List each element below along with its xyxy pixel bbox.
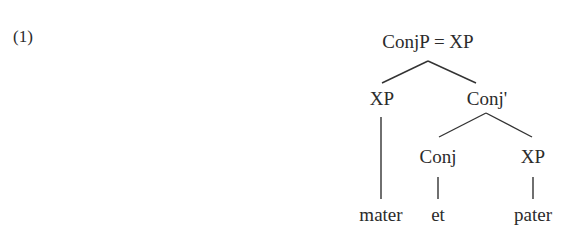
node-conj: Conj [420,147,457,167]
tree-branches [0,0,572,235]
branch-conjbar-left [439,113,486,137]
branch-root-right [428,61,476,83]
leaf-mater: mater [359,205,402,225]
node-left-xp: XP [370,89,394,109]
leaf-et: et [431,205,445,225]
leaf-pater: pater [514,205,552,225]
node-root: ConjP = XP [382,32,473,52]
branch-conjbar-right [486,113,532,137]
node-right-xp: XP [521,147,545,167]
node-conj-bar: Conj' [467,89,507,109]
branch-root-left [382,61,428,83]
